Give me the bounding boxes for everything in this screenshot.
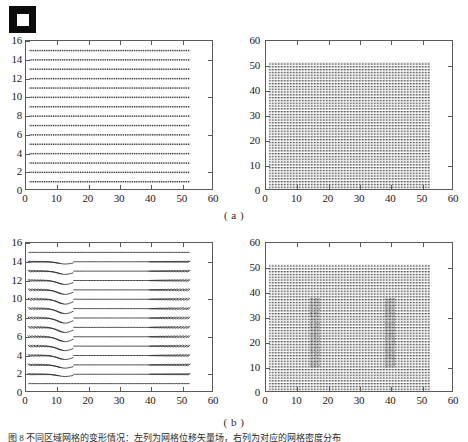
panel-a-right-data-layer: [266, 41, 453, 190]
y-tick-label: 4: [17, 349, 22, 360]
y-tick: [266, 116, 270, 117]
x-tick: [151, 185, 152, 189]
y-tick: [26, 318, 30, 319]
uniform-density-block: [269, 62, 430, 190]
panel-b-right-y-axis-labels: 60 50 40 30 20 10 0: [238, 242, 260, 392]
y-tick: [26, 135, 30, 136]
y-tick-label: 10: [249, 160, 260, 171]
panel-b-right-data-layer: [266, 243, 453, 392]
x-tick: [360, 387, 361, 391]
y-tick: [26, 262, 30, 263]
x-tick-top: [89, 243, 90, 247]
y-tick-label: 2: [17, 368, 22, 379]
figure-page: 16 14 12 10 8 6 4 2 0: [0, 0, 468, 442]
x-tick-label: 0: [22, 193, 27, 204]
x-tick: [89, 185, 90, 189]
y-tick-right: [208, 337, 212, 338]
panel-a-right: 60 50 40 30 20 10 0: [234, 0, 468, 212]
x-tick-top: [120, 243, 121, 247]
y-tick-label: 60: [249, 237, 260, 248]
x-tick-label: 50: [416, 395, 427, 406]
y-tick-label: 6: [17, 330, 22, 341]
panel-a-right-y-axis-labels: 60 50 40 30 20 10 0: [238, 40, 260, 190]
y-tick: [26, 299, 30, 300]
y-tick: [266, 91, 270, 92]
x-tick-label: 10: [291, 395, 302, 406]
y-tick-label: 8: [17, 312, 22, 323]
y-tick: [266, 368, 270, 369]
x-tick: [329, 387, 330, 391]
panel-b-right: 60 50 40 30 20 10 0: [234, 228, 468, 418]
y-tick: [26, 116, 30, 117]
x-tick-label: 30: [114, 395, 125, 406]
y-tick-label: 60: [249, 35, 260, 46]
panel-a-left-plot-area: [25, 40, 213, 190]
y-tick-label: 2: [17, 166, 22, 177]
x-tick-label: 50: [416, 193, 427, 204]
x-tick-label: 0: [262, 395, 267, 406]
x-tick-top: [297, 41, 298, 45]
y-tick-label: 8: [17, 110, 22, 121]
y-tick-right: [208, 135, 212, 136]
x-tick-top: [329, 41, 330, 45]
x-tick: [329, 185, 330, 189]
x-tick: [423, 387, 424, 391]
y-tick-label: 0: [17, 387, 22, 398]
y-tick: [266, 318, 270, 319]
x-tick-label: 60: [208, 193, 219, 204]
y-tick-right: [208, 299, 212, 300]
x-tick-top: [360, 41, 361, 45]
x-tick-top: [297, 243, 298, 247]
x-tick-label: 20: [82, 395, 93, 406]
x-tick-label: 60: [448, 395, 459, 406]
x-tick-label: 50: [176, 395, 187, 406]
y-tick-label: 40: [249, 287, 260, 298]
x-tick-top: [183, 243, 184, 247]
y-tick: [26, 243, 30, 244]
x-tick: [391, 387, 392, 391]
panel-a-left-x-axis-labels: 0 10 20 30 40 50 60: [25, 193, 213, 206]
y-tick: [26, 356, 30, 357]
x-tick-top: [360, 243, 361, 247]
y-tick: [266, 166, 270, 167]
x-tick: [297, 387, 298, 391]
x-tick: [120, 185, 121, 189]
y-tick-label: 30: [249, 110, 260, 121]
y-tick-label: 50: [249, 60, 260, 71]
y-tick-right: [448, 166, 452, 167]
y-tick: [26, 281, 30, 282]
x-tick-label: 60: [208, 395, 219, 406]
y-tick: [266, 268, 270, 269]
y-tick-label: 12: [11, 274, 22, 285]
y-tick-label: 12: [11, 72, 22, 83]
panel-b-left-x-axis-labels: 0 10 20 30 40 50 60: [25, 395, 213, 408]
subcaption-a: ( a ): [0, 209, 468, 221]
y-tick-label: 40: [249, 85, 260, 96]
x-tick-top: [89, 41, 90, 45]
x-tick-label: 40: [385, 395, 396, 406]
panel-b-left-y-axis-labels: 16 14 12 10 8 6 4 2 0: [0, 242, 22, 392]
y-tick-label: 20: [249, 337, 260, 348]
x-tick-label: 30: [114, 193, 125, 204]
x-tick-top: [57, 41, 58, 45]
y-tick: [266, 343, 270, 344]
y-tick-right: [208, 262, 212, 263]
y-tick: [26, 79, 30, 80]
y-tick: [26, 337, 30, 338]
x-tick-top: [391, 41, 392, 45]
y-tick-label: 4: [17, 147, 22, 158]
panel-b-left-data-layer: [26, 243, 213, 392]
deformed-mesh-rows: [28, 252, 191, 383]
y-tick-label: 6: [17, 128, 22, 139]
panel-b-right-plot-area: [265, 242, 453, 392]
y-tick-right: [448, 318, 452, 319]
x-tick-label: 30: [354, 395, 365, 406]
x-tick: [360, 185, 361, 189]
y-tick-label: 16: [11, 35, 22, 46]
x-tick-top: [423, 243, 424, 247]
x-tick-label: 20: [322, 395, 333, 406]
x-tick: [120, 387, 121, 391]
x-tick-top: [329, 243, 330, 247]
y-tick-label: 14: [11, 255, 22, 266]
x-tick-label: 40: [385, 193, 396, 204]
